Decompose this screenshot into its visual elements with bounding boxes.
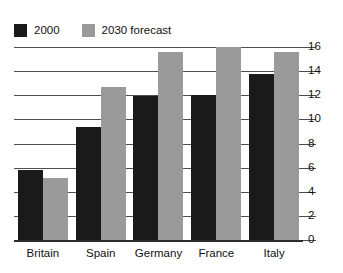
- y-axis-tick-label: 8: [308, 138, 314, 150]
- x-axis-category-label: Spain: [86, 246, 115, 260]
- legend-label: 2030 forecast: [102, 24, 172, 37]
- bar[interactable]: [133, 96, 158, 240]
- bar[interactable]: [191, 95, 216, 240]
- bar[interactable]: [43, 178, 68, 240]
- y-axis-tick-label: 4: [308, 186, 314, 198]
- axis-baseline: [14, 240, 303, 242]
- bar[interactable]: [274, 52, 299, 240]
- bar-groups: [14, 47, 303, 240]
- x-axis-category-label: France: [198, 246, 234, 260]
- bar-group: [72, 47, 130, 240]
- bar-group: [130, 47, 188, 240]
- bar[interactable]: [249, 74, 274, 240]
- legend-swatch-icon: [14, 24, 27, 37]
- x-axis-category-label: Italy: [264, 246, 285, 260]
- legend-label: 2000: [34, 24, 60, 37]
- y-axis-tick-label: 6: [308, 162, 314, 174]
- y-axis-tick-label: 10: [308, 114, 321, 126]
- bar[interactable]: [18, 170, 43, 240]
- y-axis-tick-label: 2: [308, 210, 314, 222]
- bar[interactable]: [216, 47, 241, 240]
- legend-swatch-icon: [82, 24, 95, 37]
- y-axis-tick-label: 12: [308, 90, 321, 102]
- bar-group: [14, 47, 72, 240]
- bar[interactable]: [158, 52, 183, 240]
- x-axis-category-label: Britain: [27, 246, 60, 260]
- y-axis-tick-label: 16: [308, 41, 321, 53]
- legend-entry[interactable]: 2030 forecast: [82, 24, 172, 37]
- bar[interactable]: [101, 87, 126, 240]
- x-axis-category-label: Germany: [135, 246, 182, 260]
- bar-group: [187, 47, 245, 240]
- bar[interactable]: [76, 127, 101, 240]
- x-axis-labels: BritainSpainGermanyFranceItaly: [14, 246, 303, 266]
- legend-entry[interactable]: 2000: [14, 24, 60, 37]
- bar-chart: 20002030 forecast 1614121086420 BritainS…: [0, 0, 343, 273]
- bar-group: [245, 47, 303, 240]
- chart-legend: 20002030 forecast: [14, 20, 171, 40]
- plot-area: [14, 47, 303, 240]
- y-axis-tick-label: 0: [308, 234, 314, 246]
- y-axis-tick-label: 14: [308, 65, 321, 77]
